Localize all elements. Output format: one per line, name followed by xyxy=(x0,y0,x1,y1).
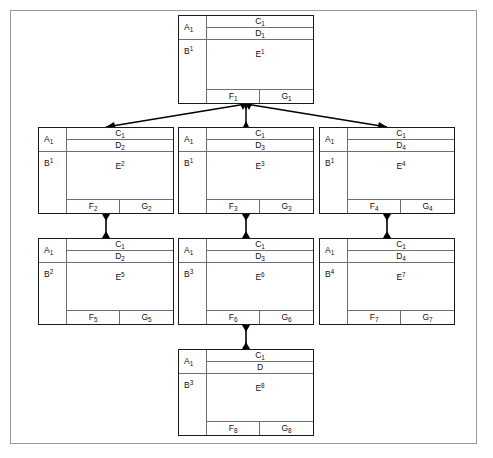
node-row3-middle-label-g: G xyxy=(281,313,288,322)
node-row2-left[interactable]: A1 B1 C1 D2 E2 F2 G2 xyxy=(38,127,174,214)
node-row2-middle-cell-f: F3 xyxy=(207,200,260,213)
node-row3-right[interactable]: A1 B4 C1 D4 E7 F7 G7 xyxy=(319,238,455,325)
node-row3-left[interactable]: A1 B2 C1 D2 E5 F5 G5 xyxy=(38,238,174,325)
node-row2-middle-label-a: A xyxy=(184,135,190,144)
node-row4-bottom-label-b: B xyxy=(184,381,190,390)
node-row2-middle-row-fg: F3 G3 xyxy=(207,199,313,213)
node-row3-left-cell-f: F5 xyxy=(67,311,120,324)
node-row4-bottom-label-g: G xyxy=(281,424,288,433)
node-row3-middle-cell-f: F6 xyxy=(207,311,260,324)
node-row3-left-cell-b: B2 xyxy=(39,263,66,324)
node-row3-middle-cell-a: A1 xyxy=(179,239,206,263)
node-root-cell-d: D1 xyxy=(207,28,313,40)
node-row2-left-label-g: G xyxy=(141,202,148,211)
node-row4-bottom-label-a: A xyxy=(184,357,190,366)
node-row3-left-right-column: C1 D2 E5 F5 G5 xyxy=(67,239,173,324)
node-row3-left-cell-a: A1 xyxy=(39,239,66,263)
node-row3-right-cell-d: D4 xyxy=(348,251,454,263)
node-row2-right-row-fg: F4 G4 xyxy=(348,199,454,213)
node-row3-middle-left-column: A1 B3 xyxy=(179,239,207,324)
node-row3-left-label-a: A xyxy=(44,246,50,255)
node-row2-left-cell-g: G2 xyxy=(120,200,173,213)
node-row2-left-left-column: A1 B1 xyxy=(39,128,67,213)
node-row2-left-cell-f: F2 xyxy=(67,200,120,213)
node-row3-right-cell-e: E7 xyxy=(348,263,454,310)
node-row3-right-right-column: C1 D4 E7 F7 G7 xyxy=(348,239,454,324)
node-row2-left-cell-b: B1 xyxy=(39,152,66,213)
node-root-cell-a: A1 xyxy=(179,16,206,40)
node-row3-right-row-fg: F7 G7 xyxy=(348,310,454,324)
node-row4-bottom-cell-b: B3 xyxy=(179,374,206,435)
node-row2-left-cell-a: A1 xyxy=(39,128,66,152)
node-row4-bottom-cell-d: D xyxy=(207,362,313,374)
node-row2-middle-right-column: C1 D3 E3 F3 G3 xyxy=(207,128,313,213)
node-row2-middle-cell-b: B1 xyxy=(179,152,206,213)
node-row3-middle-cell-e: E6 xyxy=(207,263,313,310)
node-row4-bottom-label-d: D xyxy=(257,363,263,372)
node-root-label-a: A xyxy=(184,23,190,32)
node-row2-middle-label-b: B xyxy=(184,159,190,168)
node-row2-right-cell-a: A1 xyxy=(320,128,347,152)
node-row4-bottom-cell-a: A1 xyxy=(179,350,206,374)
node-row3-left-cell-d: D2 xyxy=(67,251,173,263)
node-row2-right-label-g: G xyxy=(422,202,429,211)
node-row3-middle-label-a: A xyxy=(184,246,190,255)
node-row3-right-cell-f: F7 xyxy=(348,311,401,324)
node-row3-left-label-b: B xyxy=(44,270,50,279)
node-row3-left-cell-e: E5 xyxy=(67,263,173,310)
node-row2-middle-label-g: G xyxy=(281,202,288,211)
node-row2-left-label-b: B xyxy=(44,159,50,168)
node-row2-right-cell-f: F4 xyxy=(348,200,401,213)
node-row3-right-cell-c: C1 xyxy=(348,239,454,251)
node-row2-right-label-b: B xyxy=(325,159,331,168)
node-row2-left-label-a: A xyxy=(44,135,50,144)
node-row3-left-label-g: G xyxy=(141,313,148,322)
node-row3-right-left-column: A1 B4 xyxy=(320,239,348,324)
node-root-label-g: G xyxy=(281,92,288,101)
node-row2-left-cell-c: C1 xyxy=(67,128,173,140)
node-root-cell-b: B1 xyxy=(179,40,206,103)
diagram-canvas: A1 B1 C1 D1 E1 F1 G1 xyxy=(0,0,493,458)
node-root-cell-c: C1 xyxy=(207,16,313,28)
node-row2-right-cell-c: C1 xyxy=(348,128,454,140)
node-root-right-column: C1 D1 E1 F1 G1 xyxy=(207,16,313,103)
node-row4-bottom-cell-f: F8 xyxy=(207,422,260,435)
node-row3-right-label-g: G xyxy=(422,313,429,322)
node-row2-right-right-column: C1 D4 E4 F4 G4 xyxy=(348,128,454,213)
node-row3-left-cell-g: G5 xyxy=(120,311,173,324)
node-row4-bottom-cell-e: E8 xyxy=(207,374,313,421)
node-root[interactable]: A1 B1 C1 D1 E1 F1 G1 xyxy=(178,15,314,104)
node-row3-middle-label-b: B xyxy=(184,270,190,279)
node-row3-right-cell-a: A1 xyxy=(320,239,347,263)
node-row3-left-cell-c: C1 xyxy=(67,239,173,251)
node-row3-right-label-a: A xyxy=(325,246,331,255)
node-row2-middle[interactable]: A1 B1 C1 D3 E3 F3 G3 xyxy=(178,127,314,214)
node-row2-right-cell-b: B1 xyxy=(320,152,347,213)
node-row2-left-cell-e: E2 xyxy=(67,152,173,199)
node-root-cell-e: E1 xyxy=(207,40,313,89)
node-root-left-column: A1 B1 xyxy=(179,16,207,103)
node-row3-middle-cell-c: C1 xyxy=(207,239,313,251)
node-row3-middle-right-column: C1 D3 E6 F6 G6 xyxy=(207,239,313,324)
node-row4-bottom[interactable]: A1 B3 C1 D E8 F8 G8 xyxy=(178,349,314,436)
node-row3-middle[interactable]: A1 B3 C1 D3 E6 F6 G6 xyxy=(178,238,314,325)
node-row2-middle-left-column: A1 B1 xyxy=(179,128,207,213)
node-row3-middle-row-fg: F6 G6 xyxy=(207,310,313,324)
node-root-cell-f: F1 xyxy=(207,90,260,103)
node-row2-right-cell-g: G4 xyxy=(401,200,454,213)
node-row2-left-cell-d: D2 xyxy=(67,140,173,152)
node-row2-right-cell-d: D4 xyxy=(348,140,454,152)
node-row2-right-label-a: A xyxy=(325,135,331,144)
node-row3-right-label-b: B xyxy=(325,270,331,279)
node-row4-bottom-cell-g: G8 xyxy=(260,422,313,435)
node-row2-right-cell-e: E4 xyxy=(348,152,454,199)
node-row3-middle-cell-g: G6 xyxy=(260,311,313,324)
node-row3-right-cell-g: G7 xyxy=(401,311,454,324)
node-row2-left-right-column: C1 D2 E2 F2 G2 xyxy=(67,128,173,213)
node-row2-right-left-column: A1 B1 xyxy=(320,128,348,213)
node-row2-middle-cell-d: D3 xyxy=(207,140,313,152)
node-row2-right[interactable]: A1 B1 C1 D4 E4 F4 G4 xyxy=(319,127,455,214)
node-root-row-fg: F1 G1 xyxy=(207,89,313,103)
node-row3-left-left-column: A1 B2 xyxy=(39,239,67,324)
node-root-label-b: B xyxy=(184,47,190,56)
